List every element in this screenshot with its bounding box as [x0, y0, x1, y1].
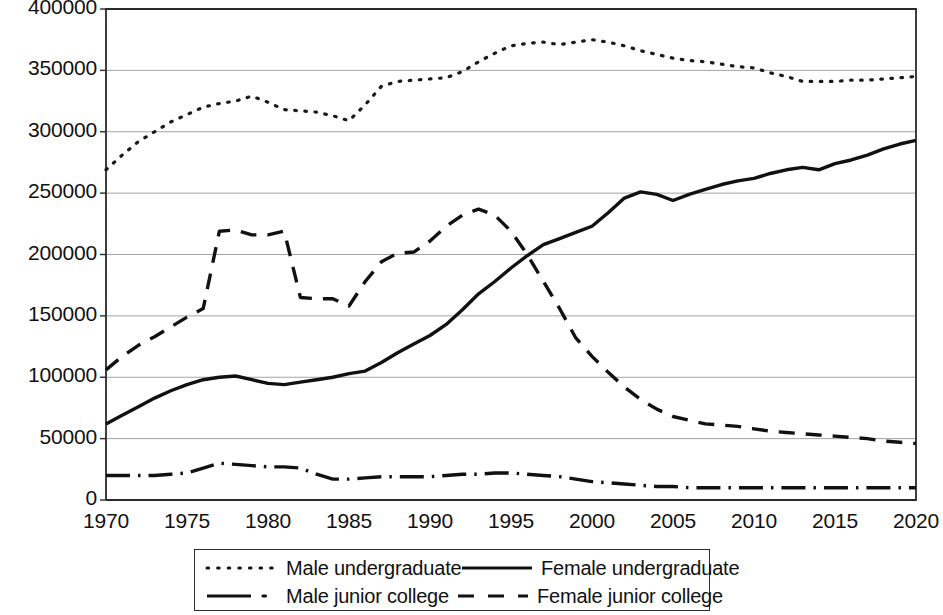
- legend-item-female-junior-college[interactable]: Female junior college: [456, 585, 701, 608]
- legend-item-female-undergraduate[interactable]: Female undergraduate: [460, 557, 705, 580]
- legend-label: Male junior college: [286, 585, 449, 608]
- legend-item-male-junior-college[interactable]: Male junior college: [205, 585, 456, 608]
- series-line-female-undergraduate: [106, 140, 916, 424]
- legend-key-dashed: [456, 588, 530, 604]
- series-line-male-junior-college: [106, 463, 916, 488]
- legend-key-solid: [460, 560, 534, 576]
- legend-row: Male junior collegeFemale junior college: [205, 582, 701, 610]
- legend-label: Female undergraduate: [541, 557, 739, 580]
- chart-legend: Male undergraduateFemale undergraduateMa…: [194, 549, 710, 611]
- legend-key-dashdot: [205, 588, 279, 604]
- series-line-male-undergraduate: [106, 40, 916, 170]
- legend-row: Male undergraduateFemale undergraduate: [205, 554, 701, 582]
- legend-label: Male undergraduate: [286, 557, 461, 580]
- series-line-female-junior-college: [106, 209, 916, 443]
- legend-label: Female junior college: [537, 585, 723, 608]
- legend-item-male-undergraduate[interactable]: Male undergraduate: [205, 557, 460, 580]
- legend-key-dotted: [205, 560, 279, 576]
